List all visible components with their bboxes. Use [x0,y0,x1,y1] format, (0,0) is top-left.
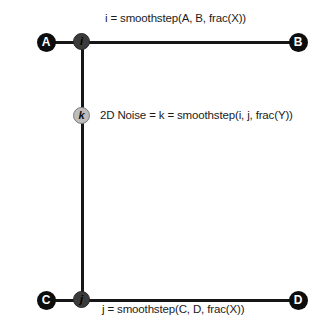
bottom-artifact-row [0,322,322,334]
diagram-canvas: A B C D i j k i = smoothstep(A, B, frac(… [0,0,322,334]
node-k-label: k [78,110,84,121]
node-b-label: B [294,36,303,48]
edge-i-to-j [81,42,84,300]
node-j[interactable]: j [73,291,90,308]
label-bottom-equation: j = smoothstep(C, D, frac(X)) [102,303,244,315]
node-i-label: i [80,36,83,47]
node-d[interactable]: D [289,291,308,310]
label-middle-equation: 2D Noise = k = smoothstep(i, j, frac(Y)) [100,109,293,121]
node-d-label: D [294,294,303,306]
node-a[interactable]: A [37,33,56,52]
node-a-label: A [42,36,51,48]
node-i[interactable]: i [73,33,90,50]
node-c[interactable]: C [37,291,56,310]
node-c-label: C [42,294,51,306]
node-j-label: j [80,294,83,305]
node-k[interactable]: k [73,107,90,124]
label-top-equation: i = smoothstep(A, B, frac(X)) [105,12,246,24]
node-b[interactable]: B [289,33,308,52]
